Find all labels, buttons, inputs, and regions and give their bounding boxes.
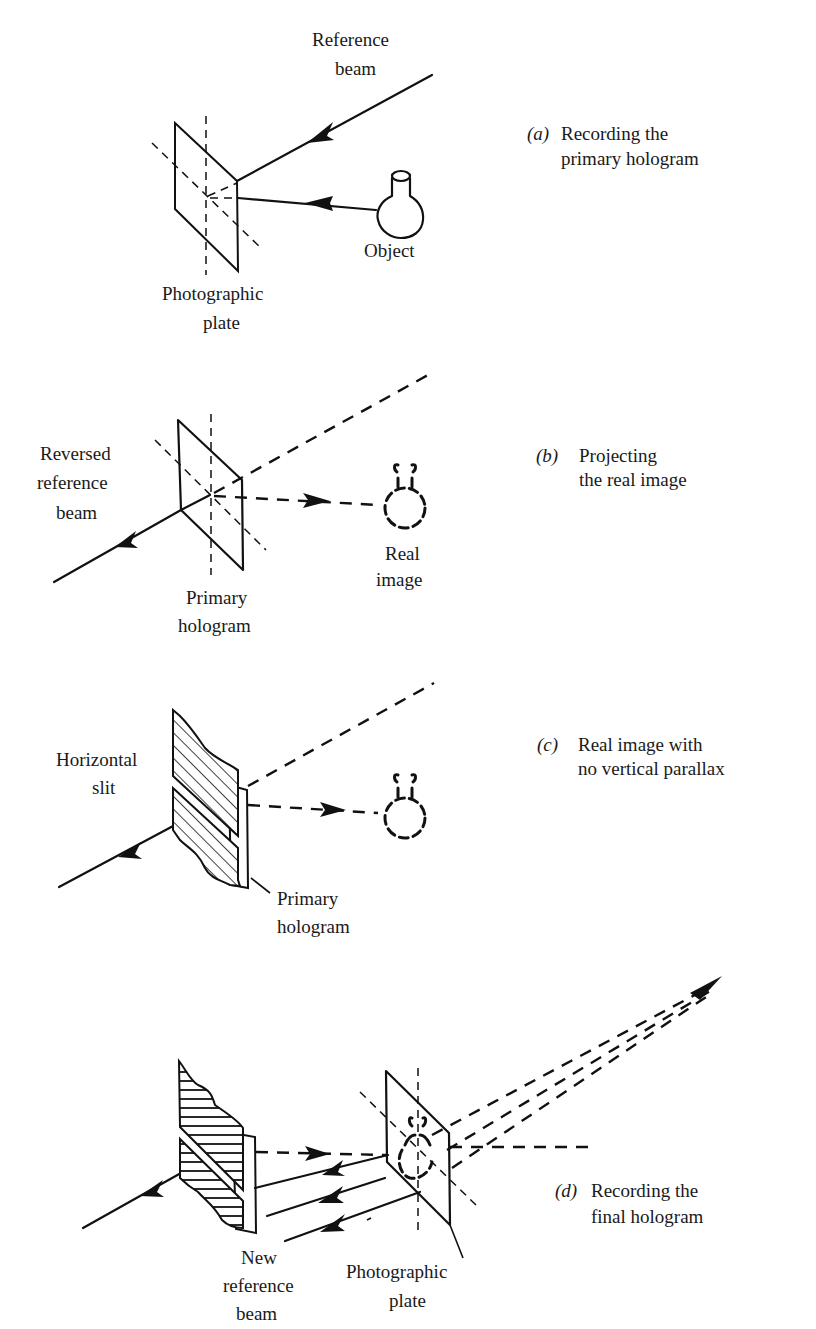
caption-c-line1: Real image with — [578, 734, 703, 755]
caption-d-line1: Recording the — [591, 1180, 698, 1201]
caption-b-line2: the real image — [579, 469, 687, 490]
label-image: image — [376, 569, 422, 590]
caption-b-line1: Projecting — [579, 445, 658, 466]
leader-line — [450, 1225, 463, 1258]
panel-c: Horizontal slit Primary hologram (c) Rea… — [56, 683, 725, 937]
label-plate: plate — [203, 312, 240, 333]
label-reference: reference — [37, 472, 108, 493]
object-beam-line — [238, 198, 376, 210]
reference-beam-line — [59, 825, 175, 887]
caption-a-line1: Recording the — [561, 123, 668, 144]
label-reversed: Reversed — [40, 443, 111, 464]
label-object: Object — [364, 240, 415, 261]
label-hologram: hologram — [178, 615, 251, 636]
leader-line — [251, 878, 270, 893]
arrowhead-icon — [115, 531, 138, 548]
object-beam-dashed — [452, 993, 712, 1168]
panel-d: New reference beam Photographic plate (d… — [83, 976, 722, 1324]
label-horizontal: Horizontal — [56, 749, 137, 770]
hologram-diagram: Reference beam Object Photographic plate… — [0, 0, 816, 1329]
reference-beam-line — [237, 75, 432, 181]
caption-d-line2: final hologram — [591, 1206, 704, 1227]
projected-beam-dashed — [248, 805, 378, 813]
arrowhead-icon — [322, 1160, 345, 1176]
real-image-flask-icon — [385, 465, 425, 528]
caption-letter-d: (d) — [555, 1180, 577, 1202]
undiffracted-beam-dashed — [248, 683, 434, 786]
object-beam-dashed — [447, 990, 712, 1150]
reversed-beam-line-inner — [181, 495, 210, 510]
label-real: Real — [385, 543, 420, 564]
arrowhead-icon — [320, 1214, 345, 1232]
normal-axis-dashed — [360, 1092, 476, 1205]
caption-c-line2: no vertical parallax — [578, 758, 725, 779]
label-new: New — [241, 1247, 277, 1268]
label-beam: beam — [335, 58, 376, 79]
caption-letter-a: (a) — [527, 123, 549, 145]
panel-a: Reference beam Object Photographic plate… — [152, 29, 699, 333]
arrowhead-icon — [318, 1186, 344, 1203]
caption-a-line2: primary hologram — [561, 148, 699, 169]
label-reference: reference — [223, 1275, 294, 1296]
flask-object-icon — [378, 171, 424, 238]
caption-letter-b: (b) — [536, 445, 558, 467]
arrowhead-icon — [690, 976, 722, 1000]
label-primary: Primary — [277, 888, 339, 909]
arrowhead-icon — [320, 802, 346, 817]
label-reference: Reference — [312, 29, 389, 50]
label-hologram: hologram — [277, 916, 350, 937]
arrowhead-icon — [118, 842, 142, 859]
object-beam-dashed — [432, 988, 708, 1135]
undiffracted-beam-dashed — [214, 375, 428, 493]
caption-letter-c: (c) — [537, 734, 558, 756]
panel-b: Reversed reference beam Real image Prima… — [37, 375, 687, 636]
label-beam: beam — [236, 1303, 277, 1324]
arrowhead-icon — [305, 196, 333, 211]
real-image-flask-icon — [385, 775, 425, 838]
reference-beam-line — [83, 1173, 181, 1228]
arrowhead-icon — [140, 1180, 164, 1197]
new-reference-beam-line — [285, 1192, 420, 1241]
label-photographic: Photographic — [162, 283, 263, 304]
beam-tail — [367, 1218, 371, 1220]
label-primary: Primary — [186, 587, 248, 608]
label-slit: slit — [92, 777, 116, 798]
real-image-flask-icon — [399, 1118, 432, 1179]
label-photographic: Photographic — [346, 1261, 447, 1282]
arrowhead-icon — [307, 122, 334, 143]
projected-beam-dashed — [214, 496, 378, 505]
label-plate: plate — [389, 1290, 426, 1311]
label-beam: beam — [56, 502, 97, 523]
